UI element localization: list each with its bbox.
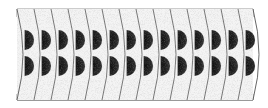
illustration-canvas xyxy=(0,0,268,108)
discs-layer xyxy=(17,25,255,80)
segmented-band-illustration xyxy=(0,0,268,108)
segment-boundary-arc xyxy=(253,9,259,100)
disc-stipple xyxy=(17,25,253,80)
